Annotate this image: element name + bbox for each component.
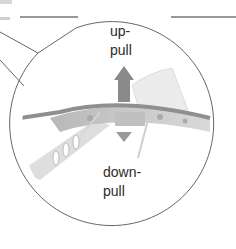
up-pull-arrow bbox=[114, 66, 134, 102]
down-pull-arrow bbox=[116, 132, 132, 142]
down-pull-label: down- pull bbox=[103, 163, 141, 201]
up-pull-label-line2: pull bbox=[110, 41, 132, 60]
up-pull-label: up- pull bbox=[110, 22, 132, 60]
down-pull-label-line1: down- bbox=[103, 163, 141, 182]
down-pull-label-line2: pull bbox=[103, 182, 141, 201]
up-pull-label-line1: up- bbox=[110, 22, 132, 41]
